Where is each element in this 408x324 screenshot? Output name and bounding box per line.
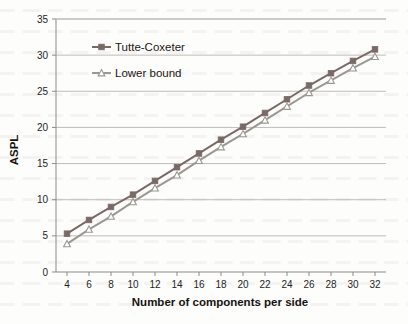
- data-point-marker: [218, 137, 224, 143]
- y-tick-label: 30: [37, 50, 49, 61]
- data-point-marker: [108, 204, 114, 210]
- tickmarks-group: [52, 19, 375, 276]
- y-tick-label: 5: [42, 230, 48, 241]
- y-tick-label: 15: [37, 158, 49, 169]
- x-tick-label: 14: [171, 279, 183, 290]
- data-point-marker: [130, 192, 136, 198]
- legend-entry: Tutte-Coxeter: [92, 41, 185, 53]
- y-tick-label: 10: [37, 194, 49, 205]
- x-axis-tick-labels: 468101214161820222426283032: [64, 279, 381, 290]
- data-series-group: [64, 47, 379, 247]
- data-point-marker: [196, 151, 202, 157]
- chart-legend: Tutte-CoxeterLower bound: [92, 41, 185, 79]
- y-tick-label: 25: [37, 86, 49, 97]
- data-point-marker: [174, 164, 180, 170]
- data-point-marker: [86, 217, 92, 223]
- legend-label: Lower bound: [115, 67, 182, 79]
- x-tick-label: 10: [127, 279, 139, 290]
- x-tick-label: 20: [237, 279, 249, 290]
- x-tick-label: 12: [149, 279, 161, 290]
- x-tick-label: 26: [303, 279, 315, 290]
- x-tick-label: 18: [215, 279, 227, 290]
- data-point-marker: [240, 124, 246, 130]
- gridlines-group: [56, 19, 386, 236]
- data-point-marker: [372, 53, 379, 59]
- x-tick-label: 32: [369, 279, 381, 290]
- data-point-marker: [350, 58, 356, 64]
- y-axis-tick-labels: 05101520253035: [37, 14, 49, 278]
- y-axis-title: ASPL: [8, 135, 20, 166]
- y-tick-label: 35: [37, 14, 49, 25]
- chart-container: 05101520253035 4681012141618202224262830…: [0, 0, 408, 324]
- series-lower-bound: [64, 53, 379, 247]
- x-tick-label: 30: [347, 279, 359, 290]
- x-tick-label: 6: [86, 279, 92, 290]
- data-point-marker: [64, 231, 70, 237]
- data-point-marker: [328, 70, 334, 76]
- x-tick-label: 8: [108, 279, 114, 290]
- legend-label: Tutte-Coxeter: [115, 41, 185, 53]
- legend-marker-icon: [99, 44, 105, 50]
- y-tick-label: 20: [37, 122, 49, 133]
- data-point-marker: [284, 96, 290, 102]
- x-tick-label: 16: [193, 279, 205, 290]
- x-tick-label: 22: [259, 279, 271, 290]
- series-tutte-coxeter: [64, 47, 378, 237]
- data-point-marker: [262, 110, 268, 116]
- x-tick-label: 28: [325, 279, 337, 290]
- legend-entry: Lower bound: [92, 67, 182, 79]
- data-point-marker: [306, 83, 312, 89]
- x-tick-label: 24: [281, 279, 293, 290]
- data-point-marker: [372, 47, 378, 53]
- data-point-marker: [152, 178, 158, 184]
- y-tick-label: 0: [42, 267, 48, 278]
- chart-svg: 05101520253035 4681012141618202224262830…: [0, 0, 408, 324]
- x-axis-title: Number of components per side: [132, 296, 308, 308]
- x-tick-label: 4: [64, 279, 70, 290]
